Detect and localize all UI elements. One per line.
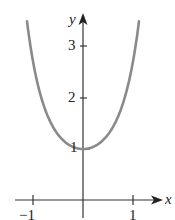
x-tick-label-neg1: −1 [19,208,35,220]
y-tick-label-2: 2 [68,90,76,105]
x-tick-label-1: 1 [129,208,137,220]
y-axis-label: y [69,12,76,27]
y-tick-label-1: 1 [70,140,78,155]
chart-canvas [0,0,175,220]
y-tick-label-3: 3 [68,38,76,53]
x-axis-label: x [165,192,172,207]
